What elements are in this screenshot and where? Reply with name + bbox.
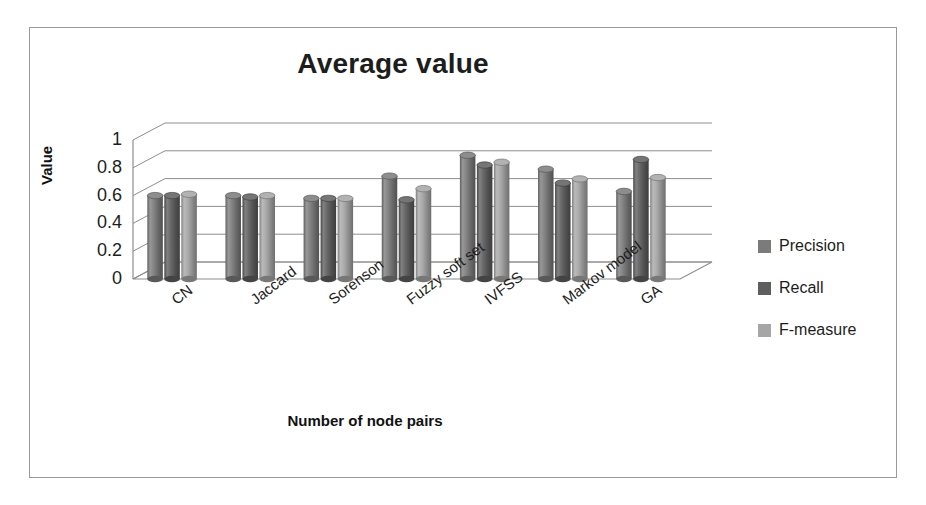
legend-label: Precision	[779, 238, 845, 254]
chart-legend: PrecisionRecallF-measure	[758, 238, 856, 364]
legend-label: Recall	[779, 280, 823, 296]
y-axis-tick-label: 1	[74, 129, 122, 150]
y-axis-tick-label: 0.8	[74, 157, 122, 178]
legend-item: F-measure	[758, 322, 856, 338]
legend-item: Recall	[758, 280, 856, 296]
legend-swatch-icon	[758, 282, 771, 295]
legend-item: Precision	[758, 238, 856, 254]
x-axis-title: Number of node pairs	[130, 412, 600, 429]
legend-swatch-icon	[758, 240, 771, 253]
chart-title: Average value	[0, 48, 926, 80]
legend-label: F-measure	[779, 322, 856, 338]
y-axis-title: Value	[38, 146, 55, 185]
y-axis-tick-label: 0	[74, 268, 122, 289]
y-axis-tick-label: 0.2	[74, 240, 122, 261]
legend-swatch-icon	[758, 324, 771, 337]
y-axis-tick-label: 0.6	[74, 185, 122, 206]
y-axis-tick-label: 0.4	[74, 212, 122, 233]
chart-figure: Average value 00.20.40.60.81 Value CNJac…	[0, 0, 926, 505]
